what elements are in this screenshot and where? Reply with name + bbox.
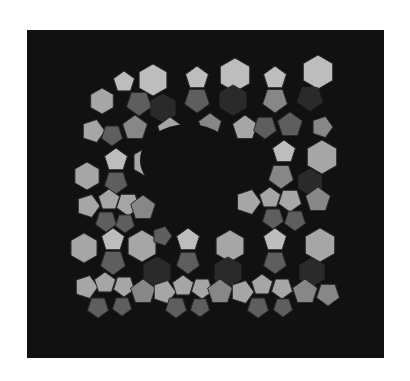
central-cavity [140,124,236,196]
polyhedral-framework-image [27,30,384,358]
framework-render [27,30,384,358]
